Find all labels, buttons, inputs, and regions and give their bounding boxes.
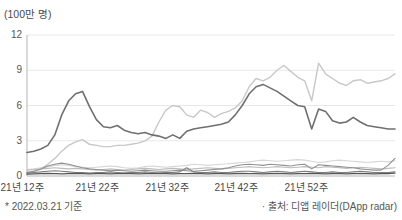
x-tick-label: 21년 32주 [136,181,198,194]
y-tick-label: 6 [0,100,22,112]
gridlines [27,35,395,176]
x-tick-label: 21년 22주 [66,181,128,194]
y-tick-label: 3 [0,135,22,147]
chart-card: (100만 명) 12 9 6 3 0 21년 12주 21년 22주 21년 … [0,0,402,220]
y-tick-label: 12 [0,29,22,41]
x-tick-label: 21년 12주 [0,181,53,194]
x-tick-label: 21년 52주 [275,181,337,194]
source-footnote: · 출처: 디앱 레이더(DApp radar) [262,200,397,213]
main-line-dark [27,84,395,152]
x-tick-label: 21년 42주 [205,181,267,194]
minor-line-darkest [27,173,395,174]
line-chart [0,0,402,220]
reference-date-footnote: * 2022.03.21 기준 [5,200,83,213]
y-tick-label: 9 [0,64,22,76]
main-line-light [27,63,395,172]
series-lines [27,63,395,174]
